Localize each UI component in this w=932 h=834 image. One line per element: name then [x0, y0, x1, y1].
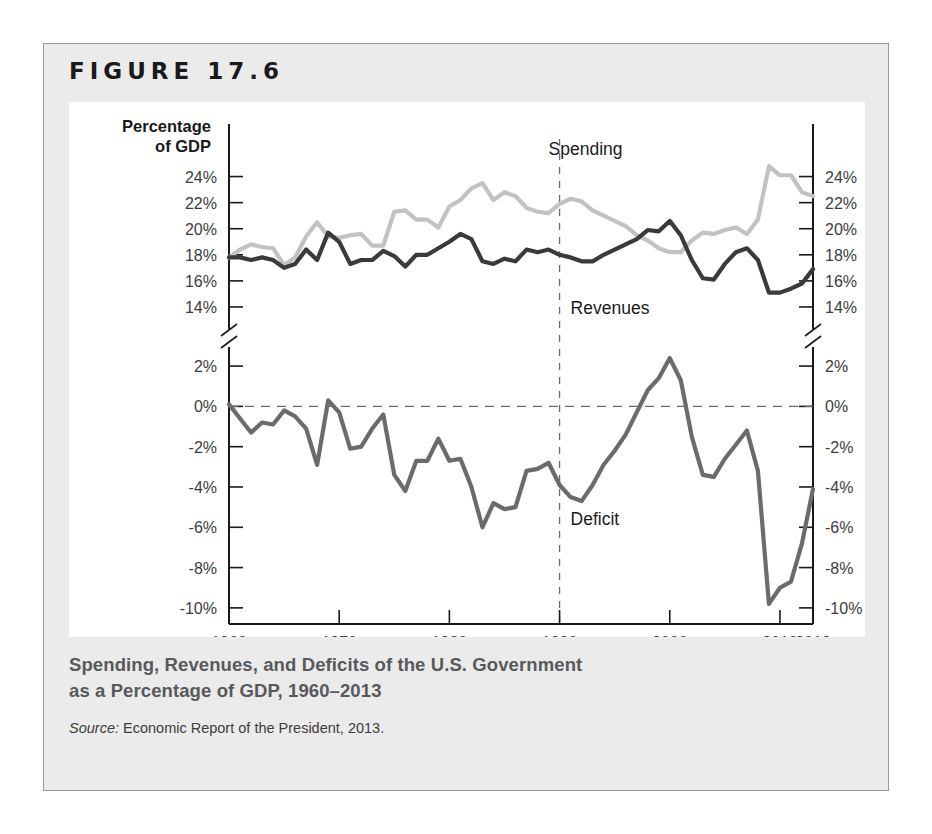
y-tick-label-upper-right: 14% — [825, 299, 857, 316]
right-axis-break-mark-2 — [805, 336, 821, 348]
x-tick-label: 2010 — [762, 634, 798, 637]
y-tick-label-lower-right: 2% — [825, 358, 848, 375]
x-tick-label: 1980 — [432, 634, 468, 637]
y-tick-label-upper-left: 20% — [185, 221, 217, 238]
y-tick-label-lower-left: -2% — [189, 439, 217, 456]
series-annotation-revenues: Revenues — [571, 298, 650, 318]
y-tick-label-upper-right: 20% — [825, 221, 857, 238]
y-tick-label-upper-right: 22% — [825, 195, 857, 212]
x-tick-label: 1970 — [321, 634, 357, 637]
y-tick-label-upper-right: 16% — [825, 273, 857, 290]
gdp-line-chart: Percentageof GDP14%14%16%16%18%18%20%20%… — [69, 102, 865, 637]
series-annotation-spending: Spending — [549, 139, 623, 159]
y-tick-label-lower-left: -8% — [189, 560, 217, 577]
y-tick-label-lower-right: 0% — [825, 398, 848, 415]
y-tick-label-upper-left: 14% — [185, 299, 217, 316]
y-tick-label-lower-left: 0% — [194, 398, 217, 415]
figure-card: FIGURE 17.6 Percentageof GDP14%14%16%16%… — [43, 43, 889, 791]
x-tick-label: 2000 — [652, 634, 688, 637]
y-tick-label-lower-right: -6% — [825, 519, 853, 536]
figure-header: FIGURE 17.6 — [44, 44, 888, 102]
y-tick-label-upper-left: 22% — [185, 195, 217, 212]
figure-number-label: FIGURE 17.6 — [69, 58, 284, 84]
y-tick-label-upper-left: 24% — [185, 169, 217, 186]
x-tick-label: 1990 — [542, 634, 578, 637]
left-axis-break-mark-2 — [221, 336, 237, 348]
caption-line-2: as a Percentage of GDP, 1960–2013 — [69, 678, 865, 704]
y-tick-label-upper-left: 18% — [185, 247, 217, 264]
y-tick-label-lower-right: -10% — [825, 600, 862, 617]
series-annotation-deficit: Deficit — [571, 509, 620, 529]
series-line-deficit — [229, 358, 813, 604]
y-tick-label-lower-right: -4% — [825, 479, 853, 496]
x-tick-label: 1960 — [211, 634, 247, 637]
y-axis-title-line2: of GDP — [155, 137, 211, 155]
caption-line-1: Spending, Revenues, and Deficits of the … — [69, 652, 865, 678]
y-tick-label-upper-right: 24% — [825, 169, 857, 186]
y-axis-title-line1: Percentage — [122, 117, 211, 135]
y-tick-label-lower-right: -8% — [825, 560, 853, 577]
source-text: Economic Report of the President, 2013. — [123, 720, 384, 736]
x-tick-label: 2013 — [795, 634, 831, 637]
source-note: Source: Economic Report of the President… — [69, 720, 865, 736]
y-tick-label-upper-left: 16% — [185, 273, 217, 290]
y-tick-label-lower-left: -10% — [180, 600, 217, 617]
y-tick-label-lower-right: -2% — [825, 439, 853, 456]
source-label: Source: — [69, 720, 119, 736]
figure-caption: Spending, Revenues, and Deficits of the … — [69, 652, 865, 736]
y-tick-label-lower-left: -6% — [189, 519, 217, 536]
y-tick-label-lower-left: -4% — [189, 479, 217, 496]
series-line-spending — [229, 166, 813, 265]
y-tick-label-upper-right: 18% — [825, 247, 857, 264]
y-tick-label-lower-left: 2% — [194, 358, 217, 375]
chart-panel: Percentageof GDP14%14%16%16%18%18%20%20%… — [69, 102, 865, 637]
